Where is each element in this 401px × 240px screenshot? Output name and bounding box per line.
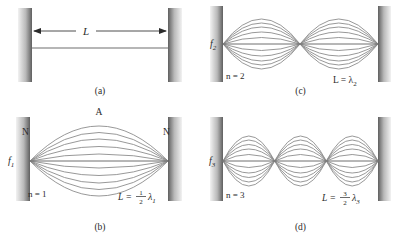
panel-b-svg: A N N f1 n = 1 L = 1 2 λ1 <box>0 105 200 240</box>
panel-b-node-label-right: N <box>163 127 170 137</box>
wall-right <box>168 117 182 201</box>
arrowhead-left-icon <box>33 28 41 34</box>
arrowhead-right-icon <box>159 28 167 34</box>
panel-b-wavelength-prefix: L = <box>117 192 132 202</box>
panel-d-fraction-numerator: 3 <box>343 190 347 198</box>
panel-b-harmonic-label: n = 1 <box>28 189 47 199</box>
panel-b-fraction-denominator: 2 <box>139 198 143 206</box>
panel-d-svg: f3 n = 3 L = 3 2 λ3 <box>200 105 401 240</box>
wall-left <box>18 8 32 82</box>
panel-d-lambda: λ3 <box>351 192 360 206</box>
wall-left <box>210 117 223 201</box>
wall-right <box>168 8 182 82</box>
panel-b-antinode-label: A <box>96 107 103 117</box>
panel-c-harmonic-label: n = 2 <box>226 71 245 81</box>
panel-b-node-label-left: N <box>22 127 29 137</box>
panel-d-caption: (d) <box>200 222 401 232</box>
panel-d-third-harmonic: f3 n = 3 L = 3 2 λ3 <box>200 105 401 240</box>
panel-b-fundamental: A N N f1 n = 1 L = 1 2 λ1 <box>0 105 200 240</box>
panel-a-caption: (a) <box>0 86 200 96</box>
panel-b-wavelength-label: L = 1 2 λ1 <box>117 189 156 206</box>
panel-b-fraction-numerator: 1 <box>139 189 143 197</box>
panel-d-wavelength-prefix: L = <box>321 193 336 203</box>
panel-a-dimension-label: L <box>82 25 89 37</box>
wall-right <box>378 6 391 82</box>
panel-d-wavelength-label: L = 3 2 λ3 <box>321 190 360 207</box>
standing-wave-figure: L (a) <box>0 0 401 240</box>
panel-d-harmonic-label: n = 3 <box>226 190 245 200</box>
wall-right <box>378 117 391 201</box>
panel-d-fraction-denominator: 2 <box>343 199 347 207</box>
panel-c-caption: (c) <box>200 86 401 96</box>
panel-b-frequency-label: f1 <box>8 155 14 169</box>
panel-b-caption: (b) <box>0 222 200 232</box>
panel-b-lambda: λ1 <box>147 191 156 205</box>
